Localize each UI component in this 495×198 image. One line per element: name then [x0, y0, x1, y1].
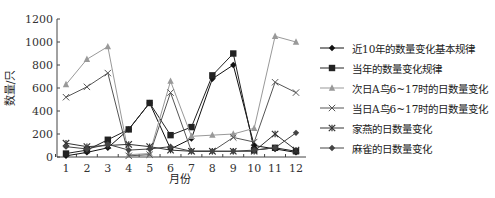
y-tick-label: 400	[32, 105, 53, 118]
x-tick-label: 1	[63, 162, 70, 175]
x-tick-label: 5	[146, 162, 153, 175]
x-tick-label: 9	[230, 162, 237, 175]
legend-marker-icon	[318, 103, 346, 113]
legend-item: 当年的数量变化规律	[318, 58, 488, 78]
legend-marker-icon	[318, 143, 346, 153]
series-5	[63, 131, 299, 155]
legend-label: 当年的数量变化规律	[352, 61, 442, 76]
y-tick-label: 0	[46, 151, 53, 164]
legend-label: 当日A鸟6~17时的日数量变化	[352, 101, 488, 116]
legend-label: 近10年的数量变化基本规律	[352, 41, 475, 56]
legend-marker-icon	[318, 43, 346, 53]
legend-item: 近10年的数量变化基本规律	[318, 38, 488, 58]
legend-label: 家燕的日数量变化	[352, 121, 432, 136]
series-3	[63, 33, 299, 158]
series-2	[63, 50, 299, 156]
y-tick-label: 600	[32, 82, 53, 95]
legend-item: 当日A鸟6~17时的日数量变化	[318, 98, 488, 118]
legend-label: 麻雀的日数量变化	[352, 141, 432, 156]
y-axis-label: 数量/只	[4, 70, 17, 107]
legend-item: 麻雀的日数量变化	[318, 138, 488, 158]
x-tick-label: 12	[289, 162, 303, 175]
x-axis-label: 月份	[169, 173, 191, 186]
legend-marker-icon	[318, 83, 346, 93]
y-tick-label: 1200	[25, 13, 53, 26]
legend-item: 次日A鸟6~17时的日数量变化	[318, 78, 488, 98]
legend: 近10年的数量变化基本规律当年的数量变化规律次日A鸟6~17时的日数量变化当日A…	[318, 38, 488, 158]
legend-item: 家燕的日数量变化	[318, 118, 488, 138]
x-tick-label: 4	[125, 162, 132, 175]
x-tick-label: 8	[209, 162, 216, 175]
x-tick-label: 2	[83, 162, 90, 175]
legend-marker-icon	[318, 63, 346, 73]
series-lines	[63, 33, 299, 160]
y-tick-label: 200	[32, 128, 53, 141]
y-tick-label: 800	[32, 59, 53, 72]
x-tick-label: 10	[247, 162, 261, 175]
legend-label: 次日A鸟6~17时的日数量变化	[352, 81, 488, 96]
y-tick-label: 1000	[25, 36, 53, 49]
legend-marker-icon	[318, 123, 346, 133]
x-tick-label: 11	[268, 162, 282, 175]
x-tick-label: 3	[104, 162, 111, 175]
